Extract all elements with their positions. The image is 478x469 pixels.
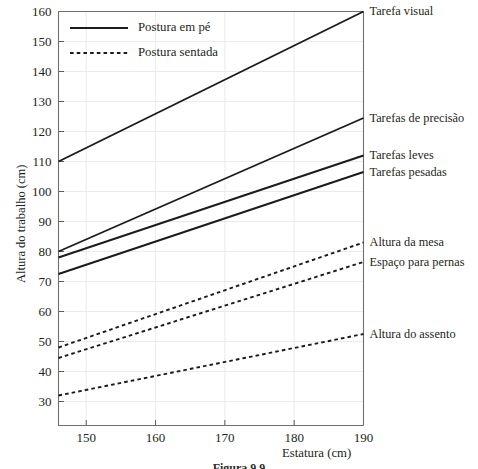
x-tick-190: 190 [342,431,386,444]
series-label: Tarefas de precisão [370,112,465,124]
data-series [59,12,364,396]
y-tick-140: 140 [18,65,52,78]
legend-label: Postura sentada [138,46,218,59]
series-line [59,172,364,274]
y-tick-120: 120 [18,125,52,138]
series-label: Altura do assento [370,328,456,340]
x-axis-title: Estatura (cm) [282,447,351,460]
y-tick-50: 50 [18,335,52,348]
y-tick-130: 130 [18,95,52,108]
series-label: Tarefas leves [370,149,434,161]
series-label: Altura da mesa [370,236,444,248]
legend-swatches [70,28,128,53]
x-tick-160: 160 [134,431,178,444]
series-line [59,156,364,258]
series-label: Tarefas pesadas [370,166,447,178]
y-axis-title: Altura do trabalho (cm) [14,165,29,283]
y-tick-60: 60 [18,305,52,318]
figure-caption: Figura 9.9 [0,461,478,469]
x-tick-170: 170 [203,431,247,444]
y-tick-40: 40 [18,365,52,378]
y-tick-160: 160 [18,5,52,18]
y-tick-150: 150 [18,35,52,48]
y-tick-30: 30 [18,395,52,408]
axis-ticks [59,12,364,426]
legend-label: Postura em pé [138,21,211,34]
series-label: Tarefa visual [370,5,434,17]
x-tick-180: 180 [272,431,316,444]
x-tick-150: 150 [64,431,108,444]
series-label: Espaço para pernas [370,256,465,268]
gridlines [59,12,364,426]
axis-frame [59,12,364,426]
figure-container: 30405060708090100110120130140150160 1501… [0,0,478,469]
